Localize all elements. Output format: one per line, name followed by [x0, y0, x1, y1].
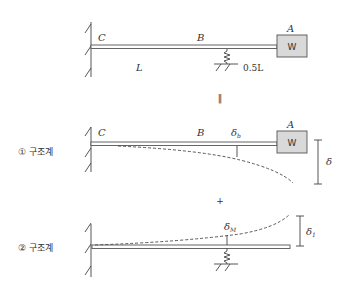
deflected-shape-1: [118, 146, 293, 183]
label-a-1: A: [286, 119, 294, 130]
spring-support-2: [214, 249, 238, 272]
total-deflection-label: δ: [326, 156, 332, 167]
deflection-1-label: δ1: [306, 226, 316, 238]
deflection-m-label: δM: [224, 221, 237, 233]
label-b-top: B: [196, 32, 204, 43]
system-2-label: ② 구조계: [18, 242, 53, 253]
beam-1: [91, 142, 277, 146]
beam-2: [92, 245, 290, 249]
fixed-support-top: [85, 22, 91, 77]
total-deflection-dimension: [314, 140, 322, 184]
spring-support-top: [214, 49, 238, 71]
system-2: ② 구조계 δM δ1: [18, 215, 316, 277]
deflection-1-dimension: [296, 216, 304, 246]
equals-symbol: ‖: [218, 93, 223, 104]
system-1: ① 구조계 W C B A δb δ: [18, 119, 332, 184]
fixed-support-1: [85, 127, 91, 172]
plus-symbol: +: [216, 196, 224, 206]
weight-label-top: W: [288, 42, 297, 52]
deflected-shape-2: [95, 215, 289, 245]
fixed-support-2: [85, 223, 91, 277]
deflection-b-label: δb: [231, 127, 241, 139]
beam-top: [91, 45, 277, 49]
top-structure: W C B A L 0.5L: [85, 22, 307, 77]
label-b-1: B: [196, 127, 204, 138]
label-overhang-top: 0.5L: [243, 63, 263, 73]
system-1-label: ① 구조계: [18, 146, 53, 157]
label-c-1: C: [98, 127, 106, 138]
label-c-top: C: [98, 32, 106, 43]
weight-label-1: W: [288, 138, 297, 148]
label-a-top: A: [286, 23, 294, 34]
structural-diagram: W C B A L 0.5L ‖ ① 구조계 W C B A δb: [0, 0, 351, 294]
label-l-top: L: [135, 62, 143, 73]
